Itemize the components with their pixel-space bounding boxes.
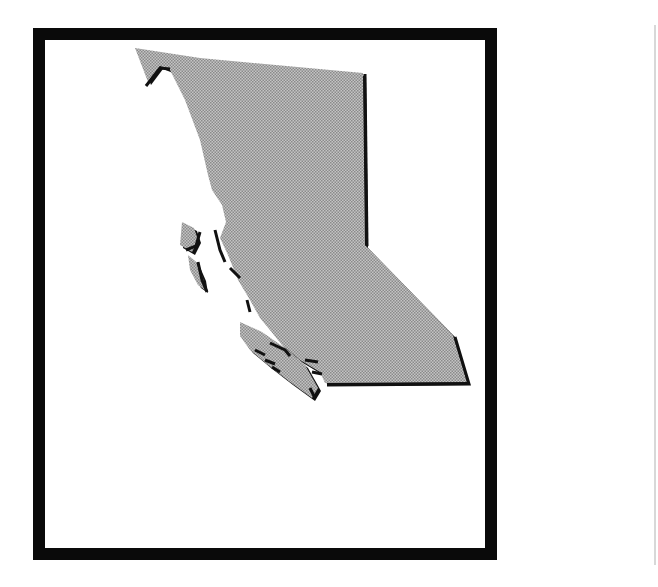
province-landmass — [135, 48, 467, 398]
province-map — [0, 0, 658, 587]
mainland — [135, 48, 467, 383]
